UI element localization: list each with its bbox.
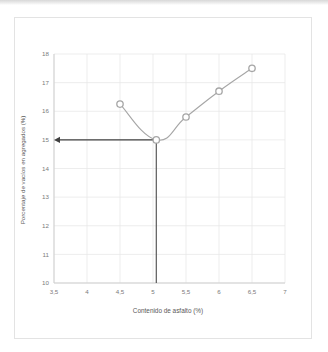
annotations-group (54, 136, 159, 283)
data-point-marker (153, 137, 159, 143)
data-point-marker (216, 88, 222, 94)
x-axis-title: Contenido de asfalto (%) (133, 307, 203, 315)
chart-svg: 101112131415161718 3,544,555,566,57 Porc… (0, 0, 328, 352)
y-tick-label: 12 (42, 222, 49, 229)
y-tick-label: 18 (42, 50, 49, 57)
y-tick-label: 16 (42, 107, 49, 114)
y-tick-label: 17 (42, 79, 49, 86)
y-tick-label: 15 (42, 136, 49, 143)
x-tick-label: 4 (85, 288, 89, 295)
x-tick-label: 7 (283, 288, 287, 295)
x-tick-label: 6,5 (248, 288, 257, 295)
y-tick-labels-group: 101112131415161718 (42, 50, 49, 286)
x-tick-labels-group: 3,544,555,566,57 (50, 288, 288, 295)
y-tick-label: 10 (42, 279, 49, 286)
data-point-marker (249, 65, 255, 71)
y-axis-title: Porcentaje de vacíos en agregados (%) (19, 116, 26, 225)
y-tick-label: 13 (42, 193, 49, 200)
gridlines-group (54, 54, 285, 283)
x-tick-label: 4,5 (116, 288, 125, 295)
data-point-marker (183, 114, 189, 120)
horizontal-construction-arrow-head (54, 137, 60, 143)
x-tick-label: 3,5 (50, 288, 59, 295)
y-tick-label: 11 (43, 251, 50, 258)
x-tick-label: 6 (217, 288, 221, 295)
data-point-marker (117, 101, 123, 107)
y-tick-label: 14 (42, 165, 49, 172)
chart-figure: 101112131415161718 3,544,555,566,57 Porc… (0, 0, 328, 352)
x-tick-label: 5,5 (182, 288, 191, 295)
x-tick-label: 5 (151, 288, 155, 295)
